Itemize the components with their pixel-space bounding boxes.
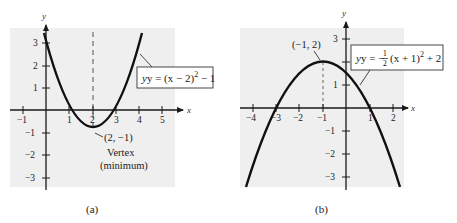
caption-b: (b)	[315, 203, 328, 216]
x-tick-label: 2	[90, 115, 95, 125]
equation-a-main: y = (x − 2)	[147, 72, 195, 85]
y-tick-label: −2	[25, 150, 35, 160]
y-tick-label: 3	[333, 34, 338, 44]
equation-b-body: (x + 1)	[390, 52, 420, 65]
x-axis-label-a: x	[186, 105, 191, 115]
x-tick-label: 1	[67, 115, 72, 125]
equation-b-rest: (x + 1)2 + 2	[390, 50, 441, 65]
y-axis-label-a: y	[41, 11, 46, 21]
y-tick-label: 1	[33, 83, 38, 93]
y-tick-label: −1	[25, 128, 35, 138]
y-tick-label: 2	[33, 61, 38, 71]
x-tick-label: 2	[391, 113, 396, 123]
chart-a: x y −1 1 2 3 4 5 3	[10, 11, 215, 216]
x-tick-label: 3	[114, 115, 119, 125]
x-tick-label: −2	[293, 113, 303, 123]
y-tick-label: −1	[325, 126, 335, 136]
y-tick-label: −2	[325, 149, 335, 159]
x-tick-label: −1	[17, 115, 27, 125]
y-tick-label: 3	[33, 38, 38, 48]
vertex-label-a: Vertex	[107, 147, 135, 158]
equation-b-frac-den: 2	[383, 59, 387, 68]
x-tick-label: 5	[160, 115, 165, 125]
y-tick-label: −3	[325, 172, 335, 182]
equation-a-tail: − 1	[198, 72, 215, 84]
caption-a: (a)	[86, 203, 99, 216]
equation-b-frac-num: 1	[383, 49, 387, 58]
y-tick-label: 1	[333, 80, 338, 90]
equation-b-prefix: y = −	[361, 52, 384, 64]
vertex-minimum-label-a: (minimum)	[100, 160, 148, 172]
x-tick-label: −4	[246, 113, 256, 123]
vertex-point-label-b: (−1, 2)	[292, 39, 321, 51]
y-axis-label-b: y	[341, 8, 346, 18]
vertex-point-label-a: (2, −1)	[104, 132, 133, 144]
equation-a: yy = (x − 2)2 − 1	[141, 70, 215, 85]
equation-b-tail: + 2	[424, 52, 441, 64]
x-axis-label-b: x	[410, 103, 415, 113]
y-tick-label: −3	[25, 173, 35, 183]
x-tick-label: 4	[137, 115, 142, 125]
x-tick-label: −1	[317, 113, 327, 123]
equation-b: yy = −	[355, 52, 384, 64]
chart-b: x y −4 −3 −2 −1 1 2 3	[240, 8, 443, 216]
